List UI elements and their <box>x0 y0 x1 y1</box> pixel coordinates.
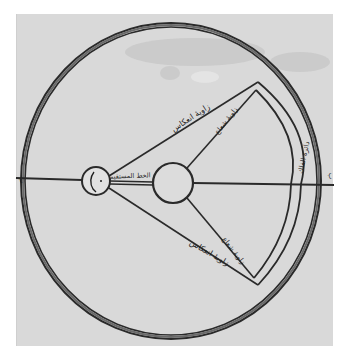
paper-stains <box>125 38 330 83</box>
label-angle-of-reflection-upper: زاويهٔ انعكاس <box>170 102 212 134</box>
mirror-circle <box>153 163 193 203</box>
label-angle-of-incidence-upper: زاويهٔ شعاع <box>213 106 239 136</box>
right-margin-mark: ب <box>327 173 335 180</box>
eye-circle <box>82 167 110 195</box>
left-margin-mark: ب <box>18 177 26 184</box>
label-outer-circle: دائرة الفلك <box>297 141 312 175</box>
label-straight-line: الخط المستقيم <box>109 171 151 180</box>
optics-diagram: زاويهٔ انعكاس زاويهٔ شعاع الخط المستقيم … <box>0 0 344 352</box>
